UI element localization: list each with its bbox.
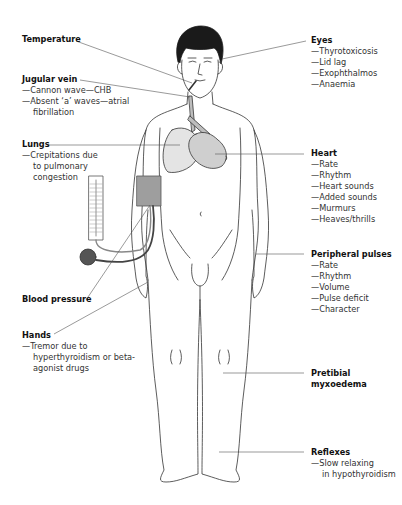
label-lungs: Lungs —Crepitations due to pulmonary con… <box>22 139 98 183</box>
label-title: Heart <box>311 148 377 159</box>
right-knee <box>219 350 230 364</box>
label-item: —Rhythm <box>311 170 377 181</box>
label-item: —Pulse deficit <box>311 293 392 304</box>
label-item: —Rate <box>311 260 392 271</box>
label-item: —Heart sounds <box>311 181 377 192</box>
label-title: Pretibial <box>311 368 367 379</box>
label-item: —Murmurs <box>311 203 377 214</box>
right-arm <box>252 130 269 298</box>
leader-hands <box>54 282 148 334</box>
label-item: fibrillation <box>22 107 129 118</box>
label-jugular-vein: Jugular vein —Cannon wave—CHB —Absent ‘a… <box>22 74 129 118</box>
leader-eyes <box>222 41 306 59</box>
label-title: Lungs <box>22 139 98 150</box>
jugular-vein <box>189 96 195 132</box>
label-peripheral-pulses: Peripheral pulses —Rate —Rhythm —Volume … <box>311 249 392 315</box>
label-title: Jugular vein <box>22 74 129 85</box>
label-item: —Rate <box>311 159 377 170</box>
right-eye-icon <box>204 61 211 62</box>
label-title-line2: myxoedema <box>311 379 367 390</box>
label-item: hyperthyroidism or beta- <box>22 352 135 363</box>
navel <box>200 212 201 216</box>
left-leg <box>148 280 200 482</box>
label-item: —Tremor due to <box>22 341 135 352</box>
label-hands: Hands —Tremor due to hyperthyroidism or … <box>22 330 135 374</box>
label-item: in hypothyroidism <box>311 469 396 480</box>
label-item: —Volume <box>311 282 392 293</box>
label-item: agonist drugs <box>22 363 135 374</box>
label-item: congestion <box>22 172 98 183</box>
label-item: —Character <box>311 304 392 315</box>
abdomen-right <box>212 230 232 258</box>
label-reflexes: Reflexes —Slow relaxing in hypothyroidis… <box>311 447 396 480</box>
genitals <box>192 264 209 286</box>
label-pretibial-myxoedema: Pretibial myxoedema <box>311 368 367 390</box>
bp-bulb-icon <box>80 249 96 265</box>
label-item: —Crepitations due <box>22 150 98 161</box>
label-item: —Rhythm <box>311 271 392 282</box>
label-heart: Heart —Rate —Rhythm —Heart sounds —Added… <box>311 148 377 225</box>
abdomen-left <box>170 230 190 258</box>
label-title: Temperature <box>22 34 81 45</box>
label-title: Peripheral pulses <box>311 249 392 260</box>
left-knee <box>171 350 182 364</box>
label-item: —Absent ‘a’ waves—atrial <box>22 96 129 107</box>
label-title: Eyes <box>311 35 378 46</box>
bp-cuff <box>137 176 161 206</box>
label-eyes: Eyes —Thyrotoxicosis —Lid lag —Exophthal… <box>311 35 378 90</box>
label-item: —Exophthalmos <box>311 68 378 79</box>
hair <box>177 26 223 64</box>
label-item: —Lid lag <box>311 57 378 68</box>
nose <box>198 64 202 75</box>
label-item: —Heaves/thrills <box>311 214 377 225</box>
left-eye-icon <box>189 61 196 62</box>
bp-tube-dark <box>96 206 154 262</box>
label-item: —Added sounds <box>311 192 377 203</box>
label-item: —Anaemia <box>311 79 378 90</box>
label-item: —Thyrotoxicosis <box>311 46 378 57</box>
label-title: Reflexes <box>311 447 396 458</box>
left-arm <box>131 130 148 298</box>
label-item: —Slow relaxing <box>311 458 396 469</box>
label-temperature: Temperature <box>22 34 81 45</box>
label-blood-pressure: Blood pressure <box>22 294 92 305</box>
label-title: Blood pressure <box>22 294 92 305</box>
label-item: —Cannon wave—CHB <box>22 85 129 96</box>
label-title: Hands <box>22 330 135 341</box>
label-item: to pulmonary <box>22 161 98 172</box>
